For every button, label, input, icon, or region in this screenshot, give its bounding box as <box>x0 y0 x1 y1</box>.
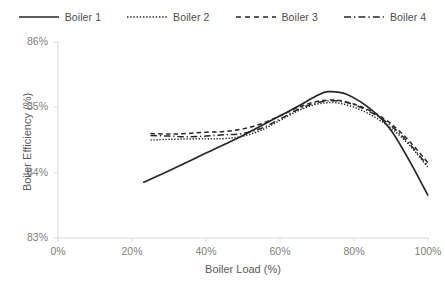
series-line-3 <box>151 100 429 163</box>
x-axis-tick-label: 40% <box>183 245 229 257</box>
axis-lines <box>54 42 428 242</box>
x-axis-tick-label: 20% <box>109 245 155 257</box>
series-line-1 <box>143 92 428 196</box>
x-axis-tick-label: 60% <box>257 245 303 257</box>
x-axis-title: Boiler Load (%) <box>58 263 428 275</box>
boiler-efficiency-chart: Boiler 1 Boiler 2 Boiler 3 Boiler 4 83%8… <box>0 0 445 287</box>
series-lines <box>143 92 428 196</box>
x-axis-tick-label: 0% <box>35 245 81 257</box>
y-axis-tick-label: 83% <box>14 231 48 243</box>
plot-area <box>0 0 445 287</box>
y-axis-tick-label: 86% <box>14 35 48 47</box>
x-axis-tick-label: 80% <box>331 245 377 257</box>
y-axis-title: Boiler Efficiency (%) <box>21 62 33 222</box>
x-axis-tick-label: 100% <box>405 245 445 257</box>
